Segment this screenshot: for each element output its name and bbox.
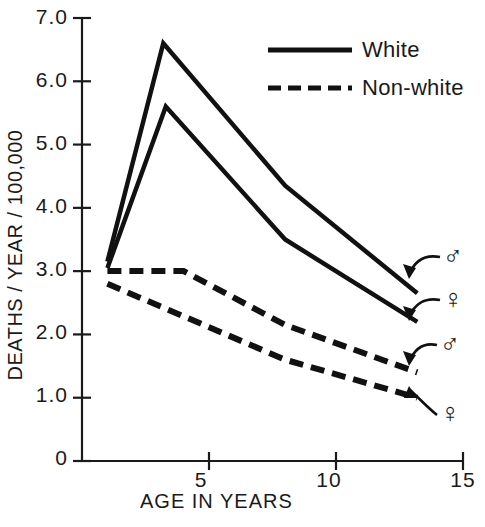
x-tick-label-5: 5 (186, 468, 216, 492)
legend-label-nonwhite: Non-white (362, 75, 464, 101)
y-tick-label-7: 7.0 (6, 5, 68, 29)
y-tick-label-0: 0 (6, 446, 68, 470)
white-female-marker: ♀ (443, 286, 463, 313)
series-non-white-male (107, 271, 417, 372)
y-tick-label-6: 6.0 (6, 68, 68, 92)
legend-keys (268, 50, 352, 88)
series-non-white-female (107, 284, 417, 398)
annotation-arrows (409, 256, 440, 415)
series-white-female (107, 107, 417, 322)
nonwhite-female-marker: ♀ (440, 400, 460, 427)
figure: 7.0 6.0 5.0 4.0 3.0 2.0 1.0 0 5 10 15 DE… (0, 0, 485, 527)
legend-label-white: White (362, 37, 420, 63)
arrow-white-female (409, 299, 440, 317)
x-tick-label-15: 15 (446, 468, 480, 492)
white-male-marker: ♂ (443, 243, 463, 270)
arrow-white-male (409, 256, 440, 275)
x-axis-title: AGE IN YEARS (140, 490, 293, 513)
nonwhite-male-marker: ♂ (440, 331, 460, 358)
x-tick-label-10: 10 (312, 468, 346, 492)
y-axis-title: DEATHS / YEAR / 100,000 (4, 90, 27, 420)
